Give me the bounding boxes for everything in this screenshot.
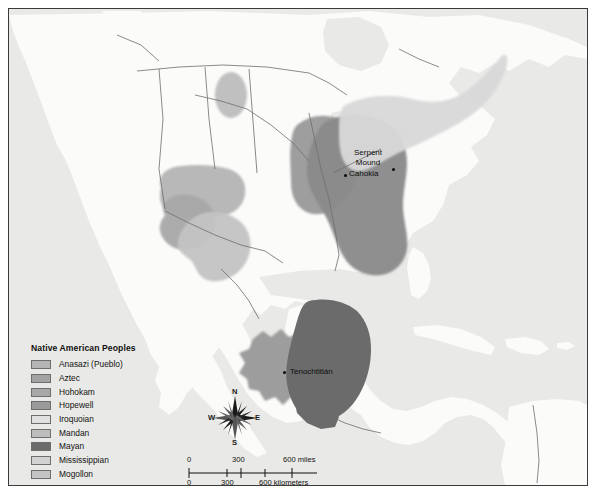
legend-item-label: Mogollon — [59, 470, 93, 479]
legend-swatch — [31, 415, 51, 424]
legend-item-label: Mandan — [59, 429, 89, 438]
legend-item-label: Aztec — [59, 374, 80, 383]
legend-swatch — [31, 456, 51, 465]
legend-item-label: Iroquoian — [59, 415, 94, 424]
legend-item-label: Hopewell — [59, 401, 93, 410]
compass-south-label: S — [232, 438, 237, 447]
legend-item: Mississippian — [31, 454, 149, 468]
compass-west-label: W — [208, 413, 215, 422]
legend-item-label: Mayan — [59, 442, 84, 451]
compass-east-label: E — [255, 413, 260, 422]
scale-bar: 0 300 600 miles 0 300 600 kilometers — [187, 455, 347, 486]
legend-item-label: Mississippian — [59, 456, 109, 465]
scale-km-600: 600 kilometers — [259, 478, 308, 486]
scale-miles-300: 300 — [232, 455, 245, 464]
compass-rose: N E S W — [205, 387, 265, 449]
scale-miles-0: 0 — [187, 455, 191, 464]
serpent-mound-line1: Serpent — [354, 148, 382, 157]
label-cahokia: Cahokia — [349, 169, 378, 179]
map-page: Serpent Mound Cahokia Tenochtitlán Nativ… — [0, 0, 595, 494]
legend-item: Mayan — [31, 440, 149, 454]
legend-swatch — [31, 429, 51, 438]
legend-item: Hopewell — [31, 399, 149, 413]
legend-swatch — [31, 374, 51, 383]
serpent-mound-line2: Mound — [356, 158, 380, 167]
label-serpent-mound: Serpent Mound — [354, 148, 382, 167]
legend-swatch — [31, 388, 51, 397]
legend-item: Anasazi (Pueblo) — [31, 358, 149, 372]
legend-swatch — [31, 401, 51, 410]
legend-item: Mandan — [31, 426, 149, 440]
legend-item: Mogollon — [31, 468, 149, 482]
legend-item: Hohokam — [31, 385, 149, 399]
legend-swatch — [31, 442, 51, 451]
legend-item: Aztec — [31, 372, 149, 386]
legend: Native American Peoples Anasazi (Pueblo)… — [23, 343, 149, 481]
legend-item-label: Anasazi (Pueblo) — [59, 360, 123, 369]
compass-north-label: N — [232, 387, 237, 396]
legend-swatch — [31, 360, 51, 369]
map-frame: Serpent Mound Cahokia Tenochtitlán Nativ… — [8, 8, 588, 486]
scale-km-300: 300 — [221, 478, 234, 486]
legend-item-label: Hohokam — [59, 388, 95, 397]
legend-item: Iroquoian — [31, 413, 149, 427]
scale-km-0: 0 — [187, 478, 191, 486]
legend-items: Anasazi (Pueblo)AztecHohokamHopewellIroq… — [23, 358, 149, 481]
legend-swatch — [31, 470, 51, 479]
label-tenochtitlan: Tenochtitlán — [290, 367, 333, 377]
region-mandan — [215, 72, 247, 118]
legend-title: Native American Peoples — [31, 343, 149, 353]
scale-miles-600: 600 miles — [283, 455, 316, 464]
south-america-landmass — [501, 399, 587, 485]
